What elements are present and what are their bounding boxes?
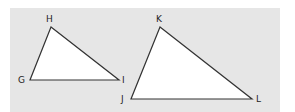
vertex-label-j: J xyxy=(121,94,124,104)
triangle-jkl xyxy=(131,27,252,99)
vertex-label-k: K xyxy=(156,14,162,24)
vertex-label-g: G xyxy=(18,75,25,85)
vertex-label-i: I xyxy=(122,75,125,85)
vertex-label-l: L xyxy=(256,94,261,104)
triangles-figure xyxy=(0,0,295,112)
vertex-label-h: H xyxy=(46,14,53,24)
triangle-ghi xyxy=(30,27,119,80)
